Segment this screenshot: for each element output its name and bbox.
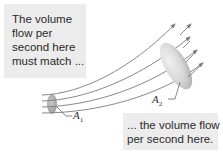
- callout-upstream-line-4: must match ...: [12, 54, 86, 68]
- label-a1: A1: [73, 109, 83, 124]
- callout-upstream-line-3: second here: [12, 40, 86, 54]
- cross-section-a1: [47, 94, 57, 114]
- cross-section-a2: [153, 38, 198, 94]
- label-a2: A2: [152, 93, 162, 108]
- callout-downstream-line-2: per second here.: [127, 132, 218, 146]
- callout-downstream-line-1: ... the volume flow: [127, 118, 218, 132]
- callout-downstream: ... the volume flow per second here.: [123, 113, 218, 150]
- callout-upstream-line-1: The volume: [12, 12, 86, 26]
- callout-upstream: The volume flow per second here must mat…: [4, 4, 86, 78]
- callout-upstream-line-2: flow per: [12, 26, 86, 40]
